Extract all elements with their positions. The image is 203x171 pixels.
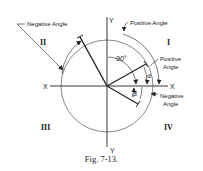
x-axis-label-right: X (170, 83, 175, 90)
negative-angle-top-label: Negative Angle (27, 21, 68, 27)
beta-label: β (133, 90, 137, 98)
quadrant-1-label: I (167, 38, 170, 47)
x-axis-label-left: X (43, 83, 48, 90)
diagram-svg: X X Y Y I II III IV Negative Angle Posit… (0, 0, 203, 171)
quadrant-3-label: III (41, 123, 50, 132)
quadrant-2-label: II (40, 38, 46, 47)
negative-angle-right-label-1: Negative (160, 93, 184, 99)
positive-angle-arc-outer (123, 34, 159, 84)
negative-angle-arc-q2 (62, 41, 81, 74)
positive-angle-right-label-1: Positive (160, 56, 182, 62)
angle-diagram: X X Y Y I II III IV Negative Angle Posit… (0, 0, 203, 171)
quadrant-4-label: IV (164, 123, 173, 132)
beta-arc (140, 87, 142, 99)
negative-angle-leader (17, 24, 63, 70)
negative-angle-right-label-2: Angle (163, 101, 179, 107)
alpha-label: α (147, 72, 152, 80)
y-axis-label-top: Y (109, 17, 114, 24)
ninety-degree-label: 90° (116, 55, 127, 62)
positive-angle-ray-q1 (107, 64, 146, 86)
positive-angle-top-label: Positive Angle (130, 20, 168, 26)
positive-angle-leader (124, 22, 128, 31)
figure-caption: Fig. 7-13. (0, 154, 203, 164)
negative-angle-ray-q2 (80, 37, 107, 86)
y-axis-label-bottom: Y (110, 147, 115, 154)
positive-angle-right-label-2: Angle (163, 64, 179, 70)
tick-q4 (136, 101, 140, 107)
